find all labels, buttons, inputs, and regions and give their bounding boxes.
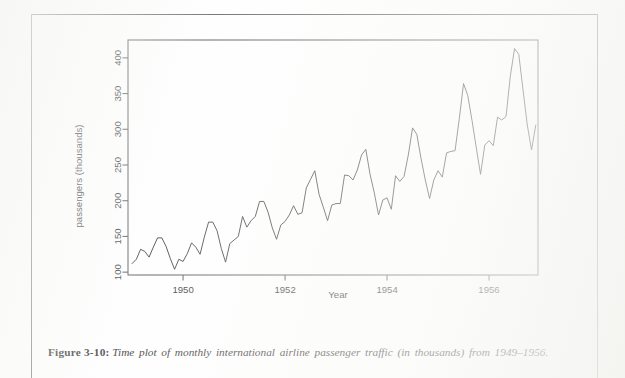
scanned-book-page: passengers (thousands) Year 100150200250… <box>0 0 625 378</box>
y-axis-ticks: 100150200250300350400 <box>112 50 128 280</box>
x-tick-label: 1956 <box>478 284 499 295</box>
x-axis-title: Year <box>328 289 348 300</box>
figure-number: Figure 3-10 <box>48 346 106 358</box>
y-tick-label: 200 <box>112 193 123 209</box>
y-tick-label: 250 <box>112 157 123 173</box>
x-tick-label: 1952 <box>274 284 295 295</box>
y-tick-label: 400 <box>112 50 123 66</box>
caption-separator: : <box>106 346 110 358</box>
page-border-top <box>31 14 598 15</box>
series-line <box>132 49 536 270</box>
x-tick-label: 1950 <box>172 284 193 295</box>
y-tick-label: 300 <box>112 121 123 137</box>
page-border-left <box>31 14 32 378</box>
x-tick-label: 1954 <box>376 284 398 295</box>
time-series-chart: passengers (thousands) Year 100150200250… <box>60 24 560 324</box>
y-tick-label: 100 <box>112 264 123 280</box>
chart-canvas: passengers (thousands) Year 100150200250… <box>60 24 560 324</box>
y-tick-label: 150 <box>112 228 123 244</box>
page-border-right <box>597 14 598 378</box>
figure-caption: Figure 3-10: Time plot of monthly intern… <box>48 344 581 360</box>
caption-body: Time plot of monthly international airli… <box>112 346 548 358</box>
y-tick-label: 350 <box>112 86 123 102</box>
passenger-series-line <box>132 49 536 270</box>
plot-frame <box>128 40 538 275</box>
y-axis-title: passengers (thousands) <box>73 125 84 228</box>
